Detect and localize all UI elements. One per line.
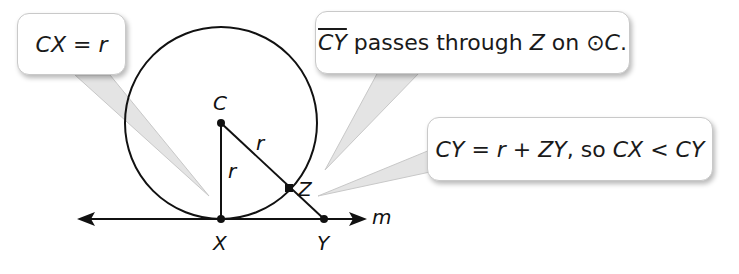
callout-right-f: , so — [567, 137, 613, 162]
callout-top-c: C — [605, 30, 620, 55]
callout-right-a: CY — [436, 137, 465, 162]
callout-left-eq: = — [66, 32, 98, 57]
point-c — [217, 119, 225, 127]
callout-top-pt: Z — [530, 30, 545, 55]
callout-right-g: CX — [613, 137, 643, 162]
label-z: Z — [297, 177, 313, 201]
callout-right-c: r — [497, 137, 506, 162]
callout-left-rhs: r — [98, 32, 107, 57]
label-r-cx: r — [228, 159, 238, 183]
point-z — [285, 184, 293, 192]
point-y — [320, 215, 328, 223]
callout-left-lhs: CX — [36, 32, 66, 57]
circle-dot-icon: ⊙ — [586, 30, 604, 55]
callout-right-e: ZY — [538, 137, 567, 162]
callout-cx-equals-r: CX = r — [17, 13, 126, 75]
callout-top-seg: CY — [318, 30, 347, 55]
callout-right-d: + — [506, 137, 538, 162]
callout-top-text1: passes through — [347, 30, 530, 55]
callout-right-h: < — [643, 137, 675, 162]
callout-cy-inequality: CY = r + ZY, so CX < CY — [427, 117, 713, 181]
point-x — [217, 215, 225, 223]
label-y: Y — [317, 231, 331, 255]
pointer-top — [325, 72, 420, 170]
label-c: C — [213, 91, 227, 115]
callout-cy-passes-through-z: CY passes through Z on ⊙C. — [315, 11, 630, 74]
label-r-cz: r — [256, 131, 266, 155]
callout-right-i: CY — [676, 137, 705, 162]
label-x: X — [212, 231, 228, 255]
callout-top-end: . — [620, 30, 627, 55]
callout-right-b: = — [464, 137, 496, 162]
label-m: m — [372, 205, 391, 229]
callout-top-text2: on — [545, 30, 586, 55]
callout-pointers — [75, 72, 430, 196]
